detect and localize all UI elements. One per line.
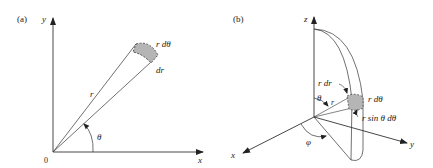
origin-label: 0 <box>44 156 48 165</box>
theta-b-label: θ <box>317 93 322 103</box>
diagram-canvas: (a) y x 0 r θ r dθ dr (b) z y x r θ φ <box>0 0 433 168</box>
area-element-patch <box>133 43 158 63</box>
theta-label: θ <box>97 132 102 142</box>
x-axis-b <box>243 117 314 153</box>
z-axis-label: z <box>303 14 308 24</box>
polar-element-label: r dθ <box>368 94 383 104</box>
arc-element-label: r dθ <box>156 39 171 49</box>
y-axis-b-label: y <box>409 139 414 149</box>
panel-b-label: (b) <box>233 14 244 24</box>
radial-element-b-label: r dr <box>318 78 332 88</box>
phi-label: φ <box>306 137 311 147</box>
ray-lower <box>53 62 151 152</box>
panel-a-label: (a) <box>17 14 27 24</box>
dr-leader <box>339 84 347 93</box>
x-axis-label: x <box>197 155 202 165</box>
ray-b-2 <box>314 108 352 117</box>
radial-element-label: dr <box>156 65 165 75</box>
panel-b: (b) z y x r θ φ r dr r dθ r sin θ dθ <box>230 14 414 161</box>
projection-line <box>314 117 351 160</box>
sin-leader <box>356 110 358 117</box>
volume-element-patch <box>347 94 363 110</box>
phi-arc <box>301 124 326 137</box>
theta-arc <box>84 124 93 152</box>
y-axis-label: y <box>41 14 46 24</box>
panel-a: (a) y x 0 r θ r dθ dr <box>17 14 203 165</box>
x-axis-b-label: x <box>230 150 235 160</box>
azimuth-element-label: r sin θ dθ <box>362 113 397 123</box>
radius-label: r <box>90 89 94 99</box>
ray-upper <box>53 44 136 152</box>
